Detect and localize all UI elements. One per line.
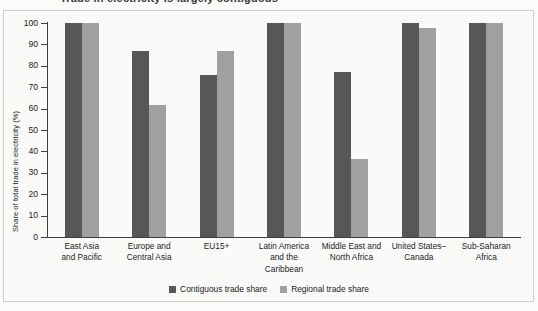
y-axis-tick-label-text: 10 [16, 211, 38, 220]
bar-group [65, 23, 99, 237]
x-axis-category-label: Sub-SaharanAfrica [447, 241, 526, 264]
bar-group [334, 23, 368, 237]
bar [217, 51, 234, 237]
x-axis-category-label-line: Caribbean [244, 264, 323, 275]
bar [267, 23, 284, 237]
bar-group [469, 23, 503, 237]
x-axis-category-labels: East Asiaand PacificEurope andCentral As… [48, 241, 520, 285]
y-axis-tick-label-text: 20 [16, 190, 38, 199]
legend-label: Regional trade share [291, 285, 369, 293]
bar [82, 23, 99, 237]
bar [334, 72, 351, 237]
chart-figure: Trade in electricity is largely contiguo… [0, 0, 538, 311]
bar [419, 28, 436, 237]
y-axis-tick-label-text: 50 [16, 126, 38, 135]
y-axis-tick-label-text: 80 [16, 61, 38, 70]
legend-item: Contiguous trade share [169, 285, 267, 293]
y-axis-tick-label-text: 30 [16, 168, 38, 177]
bar [402, 23, 419, 237]
legend-swatch-icon [280, 286, 287, 293]
y-axis-tick-label-text: 40 [16, 147, 38, 156]
legend-label: Contiguous trade share [180, 285, 267, 293]
clipped-chart-title-text: Trade in electricity is largely contiguo… [60, 0, 480, 4]
x-axis-line [47, 237, 521, 238]
bar [351, 159, 368, 237]
bar-group [267, 23, 301, 237]
bar-group [132, 23, 166, 237]
bar [284, 23, 301, 237]
bar-group [200, 23, 234, 237]
bar-group [402, 23, 436, 237]
x-axis-category-label-line: Sub-Saharan [447, 241, 526, 252]
x-axis-category-label-line: Central Asia [109, 252, 188, 263]
y-axis-tick-label-text: 0 [16, 233, 38, 242]
bar [149, 105, 166, 237]
y-axis-tick-label-text: 60 [16, 104, 38, 113]
y-axis-tick-label-text: 90 [16, 40, 38, 49]
bar [132, 51, 149, 237]
y-axis-tick-label-text: 70 [16, 83, 38, 92]
bar [486, 23, 503, 237]
clipped-chart-title: Trade in electricity is largely contiguo… [60, 0, 480, 7]
legend-swatch-icon [169, 286, 176, 293]
x-axis-category-label-line: Africa [447, 252, 526, 263]
bar [469, 23, 486, 237]
bar [200, 75, 217, 237]
plot-area [48, 23, 520, 237]
legend-item: Regional trade share [280, 285, 369, 293]
y-axis-tick-label-text: 100 [16, 19, 38, 28]
bar [65, 23, 82, 237]
y-axis-ticks: 1009080706050403020100 [0, 0, 48, 311]
chart-legend: Contiguous trade shareRegional trade sha… [0, 285, 538, 293]
